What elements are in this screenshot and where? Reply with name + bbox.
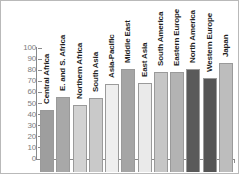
y-axis-tick-label: 80	[28, 66, 39, 74]
bar[interactable]	[56, 97, 70, 172]
y-axis-tick-label: 10	[28, 144, 39, 152]
bar-category-label: North America	[189, 10, 197, 63]
bar[interactable]	[154, 72, 168, 172]
bar[interactable]	[170, 72, 184, 172]
y-axis-tick-label: 70	[28, 77, 39, 85]
bar-category-label: East Asia	[141, 43, 149, 77]
bar-category-label: South Asia	[92, 52, 100, 92]
bar-category-label: South America	[157, 12, 165, 66]
bar[interactable]	[186, 69, 200, 172]
bar[interactable]	[121, 69, 135, 172]
bar-category-label: Central Africa	[43, 54, 51, 104]
chart-container: 0102030405060708090100 Central AfricaE. …	[0, 0, 239, 174]
bar[interactable]	[219, 63, 233, 172]
bar[interactable]	[40, 110, 54, 172]
bar[interactable]	[105, 84, 119, 172]
bar-category-label: Northern Africa	[76, 43, 84, 99]
y-axis-tick-label: 30	[28, 122, 39, 130]
bar-group: Japan	[219, 15, 233, 172]
bar-group: South America	[154, 15, 168, 172]
bar[interactable]	[89, 98, 103, 172]
bar[interactable]	[203, 78, 217, 172]
y-axis-tick-label: 100	[23, 44, 38, 52]
bar-group: E. and S. Africa	[56, 15, 70, 172]
bar-category-label: Japan	[222, 35, 230, 57]
y-axis-tick-label: 90	[28, 55, 39, 63]
bar-group: Western Europe	[203, 15, 217, 172]
y-axis-tick-label: 40	[28, 111, 39, 119]
bar-category-label: Asia-Pacific	[108, 35, 116, 79]
x-axis-end-tick	[234, 159, 235, 163]
bar-group: Northern Africa	[73, 15, 87, 172]
bar[interactable]	[73, 105, 87, 172]
bar-group: Eastern Europe	[170, 15, 184, 172]
bar-group: Asia-Pacific	[105, 15, 119, 172]
y-axis-tick-label: 60	[28, 88, 39, 96]
y-axis-tick-label: 20	[28, 133, 39, 141]
bar-category-label: Eastern Europe	[173, 9, 181, 66]
bar-group: North America	[186, 15, 200, 172]
bar-group: Middle East	[121, 15, 135, 172]
bar-category-label: Middle East	[124, 20, 132, 63]
bar-group: Central Africa	[40, 15, 54, 172]
bar-category-label: Western Europe	[206, 13, 214, 72]
bar[interactable]	[138, 83, 152, 172]
bar-category-label: E. and S. Africa	[59, 35, 67, 91]
bar-group: South Asia	[89, 15, 103, 172]
bar-group: East Asia	[138, 15, 152, 172]
y-axis-tick-label: 50	[28, 100, 39, 108]
